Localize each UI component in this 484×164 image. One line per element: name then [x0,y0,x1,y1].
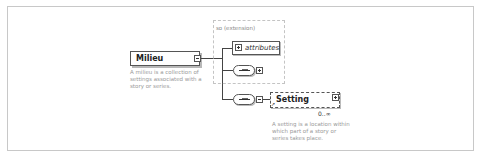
collapse-icon[interactable] [194,55,201,62]
element-setting-label: Setting [276,95,309,104]
minus-bar [196,58,199,59]
cardinality-label: 0..∞ [318,110,331,117]
reference-arrow-icon: ↗ [271,101,275,107]
expand-icon[interactable] [256,67,263,74]
connector [222,99,233,100]
expand-icon[interactable] [332,94,339,101]
extension-label: so (extension) [216,25,255,31]
element-milieu-label: Milieu [136,54,163,63]
plus-v [259,69,260,72]
expand-icon[interactable] [235,44,242,51]
sequence-compositor-icon[interactable] [233,65,255,76]
element-setting-description: A setting is a location within which par… [272,121,350,142]
sequence-dot [246,98,248,100]
element-milieu-description: A milieu is a collection of settings ass… [130,69,208,90]
attributes-label: attributes [245,44,279,52]
plus-v [238,46,239,49]
sequence-compositor-icon[interactable] [233,94,255,105]
minus-bar [258,99,261,100]
connector [263,99,270,100]
sequence-dot [246,69,248,71]
collapse-icon[interactable] [256,96,263,103]
plus-v [335,96,336,99]
